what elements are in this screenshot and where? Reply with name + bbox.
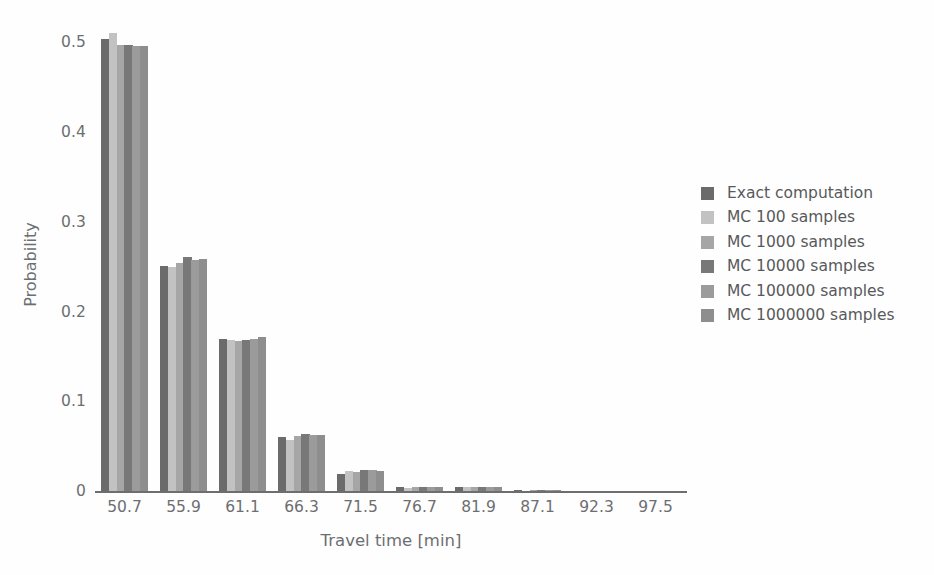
bar-group [278, 20, 325, 491]
bar [376, 471, 384, 491]
legend-swatch-icon [701, 211, 714, 224]
legend-item: Exact computation [701, 181, 926, 206]
legend-swatch-icon [701, 236, 714, 249]
legend-item: MC 10000 samples [701, 255, 926, 280]
x-tick-label: 87.1 [520, 498, 555, 516]
bar-group [573, 20, 620, 491]
x-tick-label: 92.3 [579, 498, 614, 516]
plot-area [95, 20, 685, 491]
legend-label: MC 100 samples [727, 210, 855, 226]
legend-item: MC 100000 samples [701, 279, 926, 304]
x-tick-label: 81.9 [461, 498, 496, 516]
y-axis-ticks: 00.10.20.30.40.5 [20, 0, 86, 575]
x-tick-label: 71.5 [343, 498, 378, 516]
legend-swatch-icon [701, 260, 714, 273]
chart-legend: Exact computationMC 100 samplesMC 1000 s… [701, 181, 926, 328]
legend-label: MC 100000 samples [727, 284, 885, 300]
bar-group [396, 20, 443, 491]
bar [258, 337, 266, 491]
legend-item: MC 100 samples [701, 206, 926, 231]
y-tick-label: 0.1 [26, 392, 86, 410]
x-tick-label: 76.7 [402, 498, 437, 516]
legend-label: MC 1000 samples [727, 235, 865, 251]
y-tick-label: 0.5 [26, 33, 86, 51]
x-axis-line [95, 491, 687, 493]
y-tick-label: 0.4 [26, 123, 86, 141]
bar-group [337, 20, 384, 491]
bar-group [101, 20, 148, 491]
bar-group [219, 20, 266, 491]
legend-label: MC 1000000 samples [727, 308, 895, 324]
bar-group [514, 20, 561, 491]
bar [140, 46, 148, 491]
bar [199, 259, 207, 491]
legend-item: MC 1000 samples [701, 230, 926, 255]
y-tick-label: 0.3 [26, 213, 86, 231]
x-tick-label: 97.5 [638, 498, 673, 516]
x-tick-label: 50.7 [107, 498, 142, 516]
bar-group [632, 20, 679, 491]
chart-figure: Probability 00.10.20.30.40.5 50.755.961.… [0, 0, 934, 575]
legend-label: MC 10000 samples [727, 259, 875, 275]
x-axis-title: Travel time [min] [95, 531, 687, 550]
bar-group [160, 20, 207, 491]
legend-swatch-icon [701, 285, 714, 298]
x-tick-label: 55.9 [166, 498, 201, 516]
legend-swatch-icon [701, 309, 714, 322]
y-tick-label: 0 [26, 482, 86, 500]
legend-label: Exact computation [727, 186, 873, 202]
x-tick-label: 61.1 [225, 498, 260, 516]
bar-group [455, 20, 502, 491]
x-tick-label: 66.3 [284, 498, 319, 516]
y-tick-label: 0.2 [26, 303, 86, 321]
legend-item: MC 1000000 samples [701, 304, 926, 329]
legend-swatch-icon [701, 187, 714, 200]
bar [317, 435, 325, 491]
